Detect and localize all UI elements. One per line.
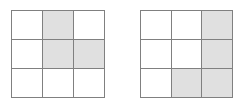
left-grid-cell-r2c1[interactable] (12, 40, 42, 68)
right-grid-cell-r1c2[interactable] (172, 11, 202, 39)
left-grid-cell-r3c3[interactable] (74, 69, 104, 97)
right-grid-cell-r1c1[interactable] (141, 11, 171, 39)
figure-canvas (0, 0, 242, 107)
right-grid (140, 10, 233, 98)
right-grid-cell-r3c1[interactable] (141, 69, 171, 97)
right-grid-cell-r2c3[interactable] (202, 40, 232, 68)
left-grid-cell-r2c2[interactable] (43, 40, 73, 68)
left-grid-cell-r3c2[interactable] (43, 69, 73, 97)
left-grid-cell-r2c3[interactable] (74, 40, 104, 68)
left-grid-cell-r3c1[interactable] (12, 69, 42, 97)
right-grid-cell-r2c1[interactable] (141, 40, 171, 68)
right-grid-cell-r3c3[interactable] (202, 69, 232, 97)
left-grid (11, 10, 105, 98)
right-grid-cell-r3c2[interactable] (172, 69, 202, 97)
right-grid-cell-r1c3[interactable] (202, 11, 232, 39)
left-grid-cell-r1c2[interactable] (43, 11, 73, 39)
left-grid-cell-r1c3[interactable] (74, 11, 104, 39)
right-grid-cell-r2c2[interactable] (172, 40, 202, 68)
left-grid-cell-r1c1[interactable] (12, 11, 42, 39)
